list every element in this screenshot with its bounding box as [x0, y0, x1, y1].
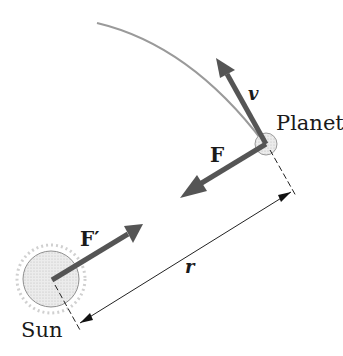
sun-label: Sun [21, 320, 62, 341]
distance-label: r [185, 258, 194, 276]
force-f-prime-label: F′ [80, 229, 99, 249]
force-f-label: F [210, 145, 224, 165]
velocity-arrow [216, 58, 266, 144]
velocity-label: v [248, 85, 258, 103]
sun-icon [23, 251, 79, 307]
planet-label: Planet [276, 113, 343, 134]
gravitation-diagram: Planet Sun v F F′ r [0, 0, 343, 356]
diagram-canvas [0, 0, 343, 356]
orbit-path [97, 23, 264, 143]
planet-extension-line [270, 150, 296, 196]
